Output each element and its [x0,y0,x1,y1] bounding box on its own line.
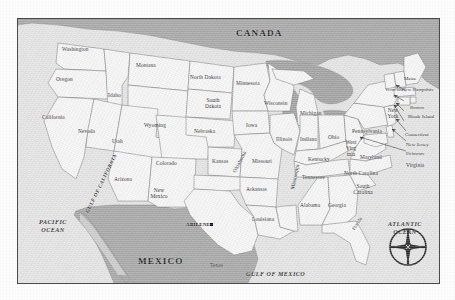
compass-rose [386,225,430,269]
label-west-virginia: West Virg inia [342,139,360,158]
label-kentucky: Kentucky [308,157,330,162]
label-louisiana: Louisiana [252,217,274,222]
label-idaho: Idaho [108,93,121,98]
label-new-jersey: New Jersey [406,143,429,148]
label-gulf-of-mexico: GULF OF MEXICO [246,271,305,279]
label-wisconsin: Wisconsin [264,101,287,106]
label-vermont: Verm ont [385,88,400,93]
label-texas: Texas [210,263,223,268]
label-oregon: Oregon [56,77,73,82]
label-abilene: ABILENE [186,223,210,228]
label-ohio: Ohio [328,135,339,140]
label-iowa: Iowa [246,123,257,128]
label-pennsylvania: Pennsylvania [352,129,382,134]
label-alabama: Alabama [300,203,320,208]
label-colorado: Colorado [156,161,177,166]
label-arizona: Arizona [114,177,132,182]
label-utah: Utah [112,139,123,144]
label-north-dakota: North Dakota [190,75,221,80]
state-rhode-island [410,97,416,103]
label-canada: CANADA [236,29,282,38]
label-pacific-ocean: PACIFIC OCEAN [30,219,76,234]
label-california: California [42,115,65,120]
label-north-carolina: North Carolina [344,171,378,176]
label-michigan: Michigan [300,111,321,116]
map-page: CANADA MEXICO PACIFIC OCEAN ATLANTIC OCE… [0,0,455,300]
label-kansas: Kansas [212,159,228,164]
state-oregon [48,69,108,99]
label-rhode-island: Rhode Island [408,115,432,120]
label-boston: Boston [410,106,424,111]
label-maryland: Maryland [360,155,382,160]
label-connecticut: Connecticut [405,133,429,138]
label-montana: Montana [136,63,156,68]
label-arkansas: Arkansas [246,187,267,192]
us-map-graphic [18,19,439,283]
label-tennessee: Tennessee [302,175,325,180]
label-south-dakota: South Dakota [200,97,226,109]
label-minnesota: Minnesota [236,81,260,86]
us-map-frame: CANADA MEXICO PACIFIC OCEAN ATLANTIC OCE… [17,18,440,284]
label-missouri: Missouri [252,159,272,164]
abilene-city-marker [210,223,213,226]
label-illinois: Illinois [276,137,292,142]
label-mexico: MEXICO [138,257,183,266]
label-wyoming: Wyoming [144,123,166,128]
label-maine: Maine [404,77,417,82]
label-nebraska: Nebraska [194,129,215,134]
label-new-mexico: New Mexico [146,187,172,199]
label-new-york: New York [384,107,402,119]
label-georgia: Georgia [328,203,346,208]
label-nevada: Nevada [78,129,95,134]
label-virginia: Virginia [406,163,424,168]
label-indiana: Indiana [300,137,317,142]
label-south-carolina: South Carolina [348,183,378,195]
label-delaware: Delaware [406,152,425,157]
label-new-hampshire: New Hampshire [402,88,430,93]
label-washington: Washington [62,47,89,52]
